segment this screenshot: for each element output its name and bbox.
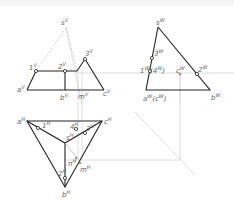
svg-text:1H: 1H xyxy=(42,120,50,130)
svg-text:nH: nH xyxy=(68,158,76,168)
svg-text:aV: aV xyxy=(17,84,25,94)
svg-text:mV: mV xyxy=(78,91,89,101)
svg-text:sV: sV xyxy=(61,17,69,27)
svg-text:2W: 2W xyxy=(198,64,208,74)
svg-text:mH: mH xyxy=(80,164,91,174)
svg-text:aW(cW): aW(cW) xyxy=(143,93,167,103)
front-view-labels: sV 1V 2V 3V aV bV mV cV xyxy=(17,17,111,102)
top-view-hidden xyxy=(65,143,78,159)
svg-text:3H: 3H xyxy=(86,123,94,133)
svg-text:bV: bV xyxy=(60,92,68,102)
svg-text:cV: cV xyxy=(103,88,111,98)
svg-text:bH: bH xyxy=(62,189,70,199)
svg-text:3V: 3V xyxy=(85,48,93,58)
svg-text:bW: bW xyxy=(211,92,221,102)
point-m-v xyxy=(80,89,83,92)
svg-text:3W: 3W xyxy=(154,48,164,58)
projection-diagram: sV 1V 2V 3V aV bV mV cV sW 3W 1W (4W) cW… xyxy=(0,0,234,210)
side-view xyxy=(146,27,210,90)
svg-text:aH: aH xyxy=(17,116,25,126)
svg-text:(4W): (4W) xyxy=(150,65,165,75)
point-m-h xyxy=(79,162,82,165)
svg-text:cH: cH xyxy=(104,116,112,126)
svg-text:sW: sW xyxy=(156,17,166,27)
